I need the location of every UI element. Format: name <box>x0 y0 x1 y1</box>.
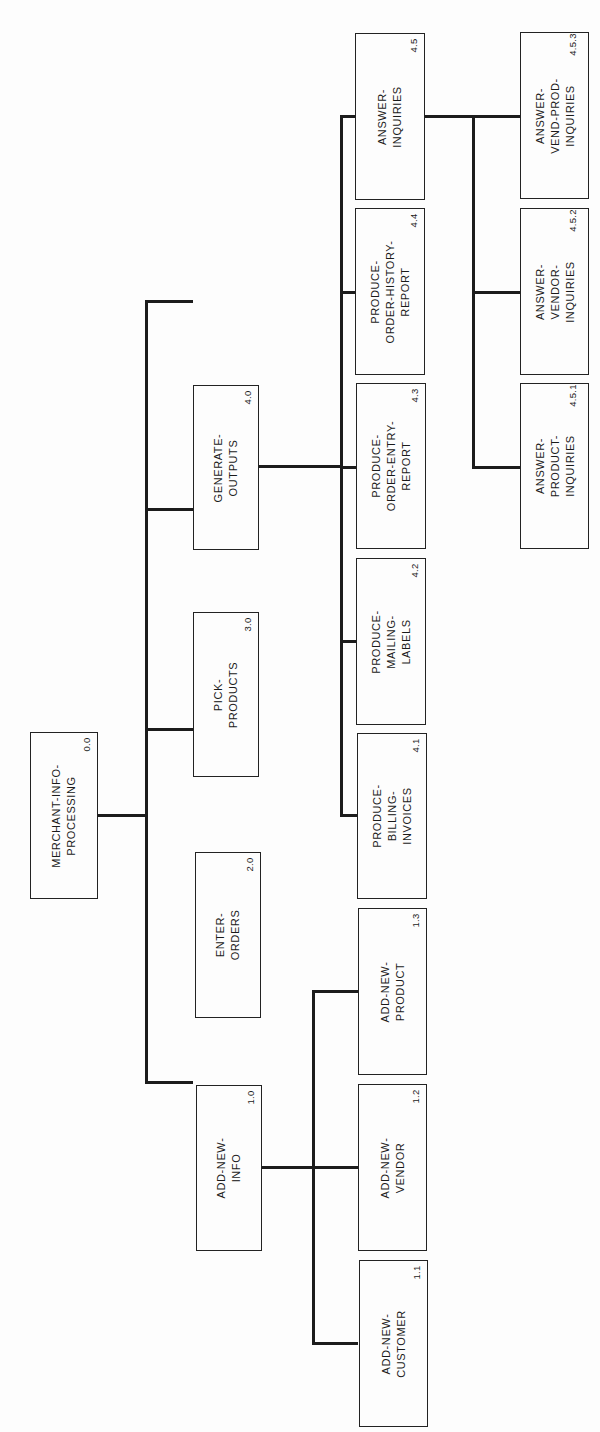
node-label: ENTER- ORDERS <box>213 910 243 961</box>
node-number: 3.0 <box>241 617 252 631</box>
node-label: GENERATE- OUTPUTS <box>211 433 241 502</box>
connector-from-4-5 <box>425 115 473 118</box>
node-add-new-customer: ADD-NEW- CUSTOMER 1.1 <box>359 1260 428 1427</box>
connector-to-4-0 <box>145 300 193 303</box>
node-number: 4.3 <box>408 388 419 402</box>
node-label: ANSWER- VEND-PROD- INQUIRIES <box>532 78 577 154</box>
node-label: ADD-NEW- CUSTOMER <box>379 1310 409 1378</box>
connector-1-0-spine <box>312 990 315 1344</box>
node-number: 4.1 <box>409 738 420 752</box>
node-add-new-info: ADD-NEW- INFO 1.0 <box>196 1085 262 1251</box>
connector-to-1-0 <box>145 1081 193 1084</box>
node-pick-products: PICK- PRODUCTS 3.0 <box>193 612 259 777</box>
node-produce-mailing-labels: PRODUCE- MAILING- LABELS 4.2 <box>356 558 426 725</box>
node-number: 4.5 <box>407 38 418 52</box>
connector-to-1-3 <box>312 990 358 993</box>
node-number: 4.5.2 <box>567 209 578 232</box>
node-answer-product-inquiries: ANSWER- PRODUCT- INQUIRIES 4.5.1 <box>520 383 589 549</box>
node-number: 4.2 <box>408 563 419 577</box>
node-label: ANSWER- PRODUCT- INQUIRIES <box>532 435 577 497</box>
connector-to-4-5-1 <box>472 466 520 469</box>
node-number: 4.5.3 <box>567 33 578 56</box>
node-answer-vend-prod-inquiries: ANSWER- VEND-PROD- INQUIRIES 4.5.3 <box>520 32 589 199</box>
node-number: 4.4 <box>407 213 418 227</box>
connector-from-4-0 <box>258 465 341 468</box>
connector-to-4-1 <box>340 814 358 817</box>
node-number: 1.2 <box>409 1089 420 1103</box>
node-label: ADD-NEW- PRODUCT <box>378 961 408 1022</box>
node-answer-inquiries: ANSWER- INQUIRIES 4.5 <box>355 33 425 200</box>
connector-from-1-0 <box>258 1166 358 1169</box>
connector-to-1-1 <box>312 1342 358 1345</box>
node-generate-outputs: GENERATE- OUTPUTS 4.0 <box>193 385 259 550</box>
node-number: 1.3 <box>409 913 420 927</box>
node-label: ADD-NEW- INFO <box>214 1138 244 1199</box>
node-number: 4.5.1 <box>567 384 578 407</box>
connector-to-4-5-2 <box>472 291 520 294</box>
node-label: PICK- PRODUCTS <box>211 661 241 728</box>
node-label: ADD-NEW- VENDOR <box>378 1137 408 1198</box>
node-label: PRODUCE- BILLING- INVOICES <box>370 784 415 847</box>
node-add-new-product: ADD-NEW- PRODUCT 1.3 <box>358 908 427 1075</box>
connector-level1-spine <box>145 300 148 1084</box>
node-label: PRODUCE- MAILING- LABELS <box>369 610 414 673</box>
node-number: 4.0 <box>241 390 252 404</box>
node-label: PRODUCE- ORDER-HISTORY- REPORT <box>368 240 413 343</box>
node-produce-order-entry-report: PRODUCE- ORDER-ENTRY- REPORT 4.3 <box>356 383 426 549</box>
node-number: 0.0 <box>80 737 91 751</box>
node-label: MERCHANT-INFO- PROCESSING <box>49 764 79 868</box>
node-produce-billing-invoices: PRODUCE- BILLING- INVOICES 4.1 <box>357 733 427 899</box>
node-label: ANSWER- VENDOR- INQUIRIES <box>532 261 577 323</box>
node-produce-order-history-report: PRODUCE- ORDER-HISTORY- REPORT 4.4 <box>355 208 425 375</box>
node-number: 2.0 <box>243 857 254 871</box>
node-merchant-info-processing: MERCHANT-INFO- PROCESSING 0.0 <box>30 732 98 899</box>
node-label: PRODUCE- ORDER-ENTRY- REPORT <box>369 421 414 511</box>
connector-to-3-0 <box>145 508 193 511</box>
node-number: 1.1 <box>410 1265 421 1279</box>
node-label: ANSWER- INQUIRIES <box>375 86 405 148</box>
node-answer-vendor-inquiries: ANSWER- VENDOR- INQUIRIES 4.5.2 <box>520 208 589 375</box>
node-add-new-vendor: ADD-NEW- VENDOR 1.2 <box>358 1084 427 1251</box>
node-enter-orders: ENTER- ORDERS 2.0 <box>195 852 261 1018</box>
connector-4-0-spine <box>340 115 343 815</box>
connector-to-2-0 <box>145 728 193 731</box>
connector-root <box>97 814 146 817</box>
connector-to-4-5-3 <box>472 115 520 118</box>
node-number: 1.0 <box>244 1090 255 1104</box>
